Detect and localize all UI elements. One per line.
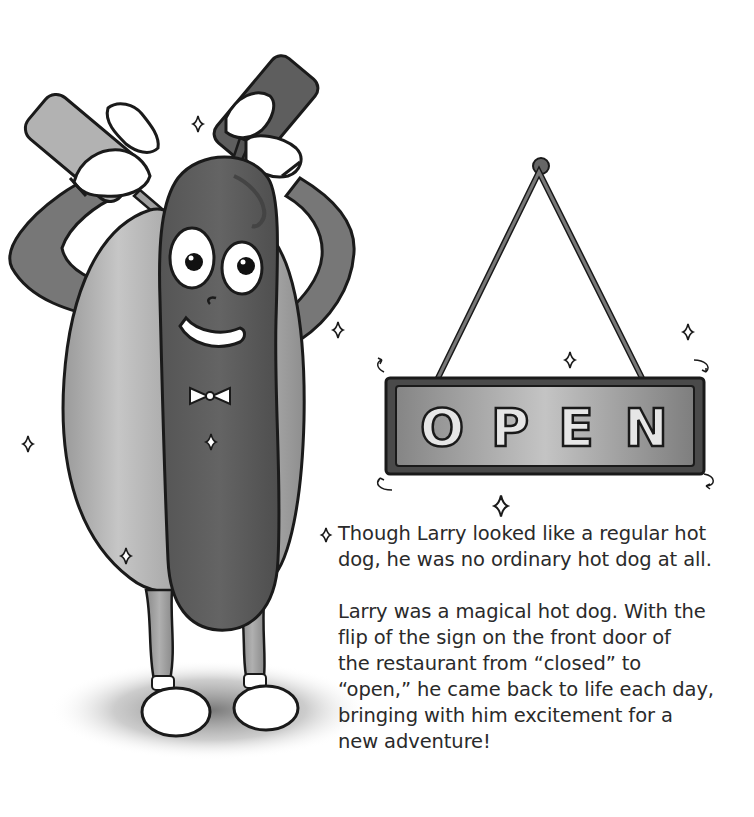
story-paragraph-1: Though Larry looked like a regular hot d… xyxy=(318,521,738,573)
book-page: O P E N Thou xyxy=(0,0,754,817)
story-line: bringing with him excitement for a xyxy=(338,704,673,727)
story-line: dog, he was no ordinary hot dog at all. xyxy=(338,548,712,571)
story-line: “open,” he came back to life each day, xyxy=(338,678,714,701)
svg-text:O: O xyxy=(420,398,464,458)
story-line: flip of the sign on the front door of xyxy=(338,626,671,649)
story-line: Though Larry looked like a regular hot xyxy=(338,522,706,545)
story-line: new adventure! xyxy=(338,730,491,753)
story-text: Though Larry looked like a regular hot d… xyxy=(318,521,738,755)
open-sign: O P E N xyxy=(378,158,714,490)
svg-text:N: N xyxy=(624,398,668,458)
svg-text:E: E xyxy=(558,398,594,458)
sign-string xyxy=(437,172,642,380)
story-line: the restaurant from “closed” to xyxy=(338,652,641,675)
story-line: Larry was a magical hot dog. With the xyxy=(338,600,706,623)
story-paragraph-2: Larry was a magical hot dog. With the fl… xyxy=(318,599,738,755)
svg-text:P: P xyxy=(491,398,529,458)
hot-dog-character xyxy=(10,51,354,736)
